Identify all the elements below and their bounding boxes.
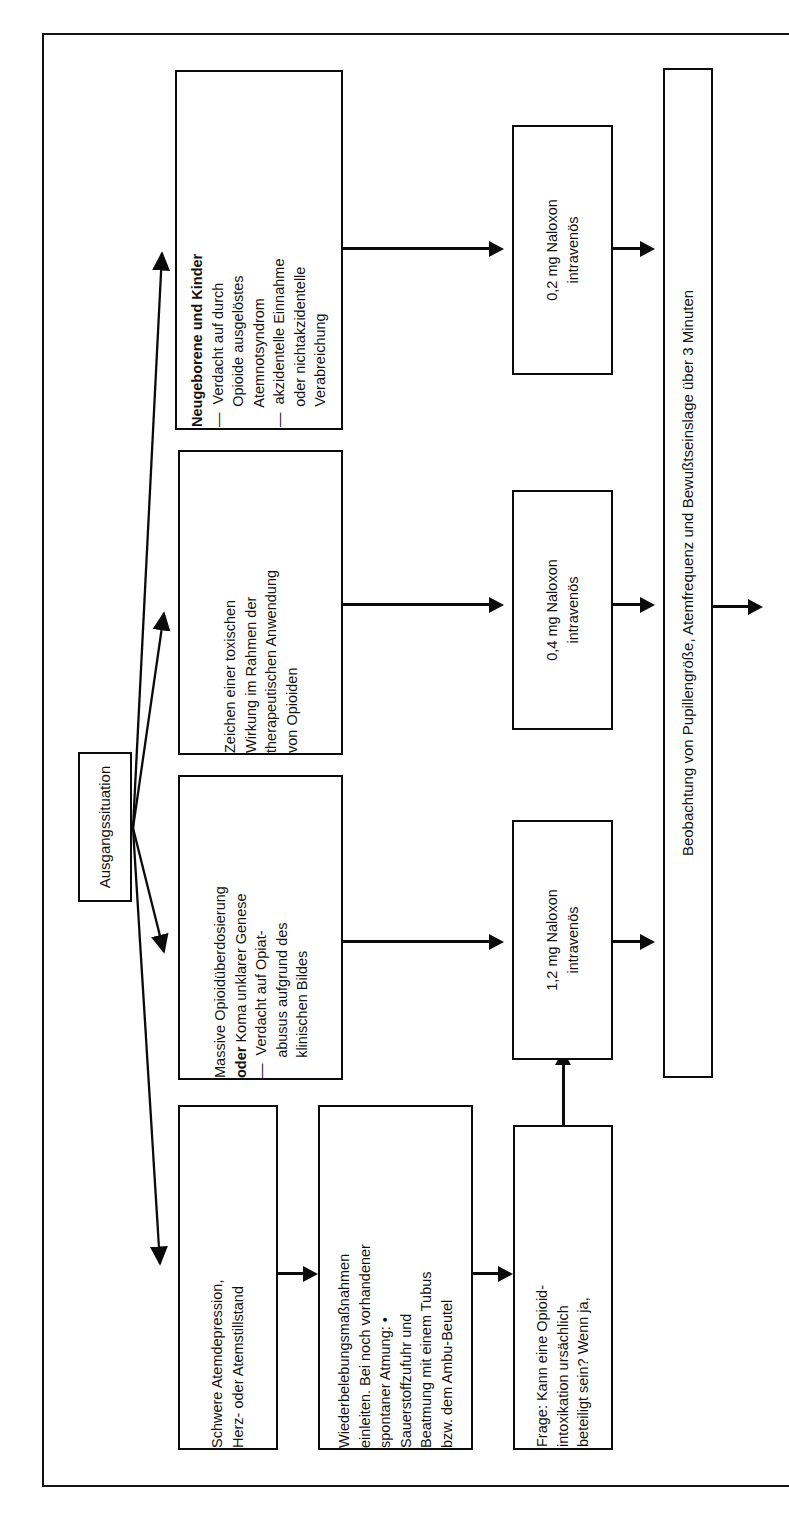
arrow-head-resuscitation-to-question [498, 1266, 513, 1282]
node-dose-02mg-text: 0,2 mg Naloxonintravenös [542, 128, 583, 373]
arrow-line-toxisch-to-dose04 [343, 603, 495, 606]
node-dose-04mg-text: 0,4 mg Naloxonintravenös [542, 493, 583, 728]
node-dose-04mg[interactable]: 0,4 mg Naloxonintravenös [512, 490, 613, 730]
node-massive-ueberdosierung-text: Massive Opioidüberdosierungoder Koma unk… [209, 778, 312, 1078]
node-neugeborene-und-kinder[interactable]: Neugeborene und Kinder— Verdacht auf dur… [175, 70, 343, 430]
node-neugeborene-text: Neugeborene und Kinder— Verdacht auf dur… [187, 73, 331, 427]
node-wiederbelebung[interactable]: Wiederbelebungsmaßnahmeneinleiten. Bei n… [318, 1105, 473, 1450]
arrow-head-neugeborene-to-dose02 [489, 241, 504, 257]
arrow-head-dose02-to-observation [640, 241, 655, 257]
node-neugeborene-title: Neugeborene und Kinder [189, 254, 205, 427]
arrow-head-atemdepression-to-resuscitation [303, 1266, 318, 1282]
arrow-head-massive-to-dose12 [489, 934, 504, 950]
node-beobachtung[interactable]: Beobachtung von Pupillengröße, Atemfrequ… [663, 68, 713, 1078]
node-schwere-atemdepression[interactable]: Schwere Atemdepression,Herz- oder Atemst… [178, 1105, 278, 1450]
arrow-head-dose04-to-observation [640, 597, 655, 613]
node-schwere-atemdepression-text: Schwere Atemdepression,Herz- oder Atemst… [207, 1108, 248, 1448]
node-frage-text: Frage: Kann eine Opioid-intoxikation urs… [532, 1129, 594, 1447]
node-beobachtung-text: Beobachtung von Pupillengröße, Atemfrequ… [677, 73, 698, 1073]
node-dose-02mg[interactable]: 0,2 mg Naloxonintravenös [512, 125, 613, 375]
arrow-head-dose12-to-observation [640, 934, 655, 950]
arrow-line-neugeborene-to-dose02 [343, 247, 495, 250]
arrow-head-toxisch-to-dose04 [489, 597, 504, 613]
arrow-head-observation-output [748, 599, 763, 615]
arrow-line-question-to-dose12 [562, 1062, 565, 1127]
node-frage-opioidintoxikation[interactable]: Frage: Kann eine Opioid-intoxikation urs… [513, 1125, 613, 1450]
figure-canvas: Ausgangssituation Neugeborene und Kinder… [0, 0, 789, 1529]
node-dose-12mg-text: 1,2 mg Naloxonintravenös [542, 823, 583, 1058]
arrow-line-massive-to-dose12 [343, 940, 495, 943]
node-massive-ueberdosierung[interactable]: Massive Opioidüberdosierungoder Koma unk… [178, 775, 343, 1080]
node-toxische-wirkung[interactable]: Zeichen einer toxischenWirkung im Rahmen… [178, 450, 343, 755]
node-dose-12mg[interactable]: 1,2 mg Naloxonintravenös [512, 820, 613, 1060]
node-toxische-wirkung-text: Zeichen einer toxischenWirkung im Rahmen… [219, 453, 301, 753]
node-wiederbelebung-text: Wiederbelebungsmaßnahmeneinleiten. Bei n… [334, 1108, 457, 1448]
